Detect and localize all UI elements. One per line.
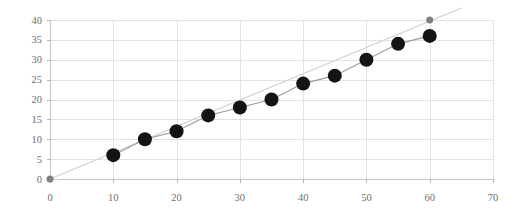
measured-data-point [359, 53, 373, 67]
measured-data-point [106, 148, 120, 162]
x-tick-label-60: 60 [424, 192, 435, 203]
x-tick-label-30: 30 [235, 192, 246, 203]
measured-data-point [391, 37, 405, 51]
measured-data-point [423, 29, 437, 43]
x-tick-label-10: 10 [108, 192, 119, 203]
vertical-gridlines [114, 20, 494, 179]
y-tick-label-30: 30 [32, 54, 43, 65]
x-tick-label-50: 50 [361, 192, 372, 203]
y-tick-label-15: 15 [32, 114, 43, 125]
y-tick-label-10: 10 [32, 134, 43, 145]
x-tick-label-20: 20 [171, 192, 182, 203]
measured-data-point [201, 108, 215, 122]
measured-data-point [328, 69, 342, 83]
y-tick-label-25: 25 [32, 74, 43, 85]
x-tick-label-70: 70 [488, 192, 499, 203]
trend-data-point [426, 17, 433, 24]
measured-data-point [138, 132, 152, 146]
y-tick-label-35: 35 [32, 34, 43, 45]
y-tick-label-5: 5 [37, 154, 42, 165]
measured-data-point [296, 77, 310, 91]
trend-data-point [47, 176, 54, 183]
measured-data-point [265, 93, 279, 107]
y-tick-label-0: 0 [37, 174, 42, 185]
y-tick-label-20: 20 [32, 94, 43, 105]
y-axis-tick-labels: 0510152025303540 [32, 15, 43, 185]
x-tick-label-0: 0 [47, 192, 52, 203]
scatter-chart: 0510152025303540 010203040506070 [0, 0, 528, 217]
x-tick-label-40: 40 [298, 192, 309, 203]
measured-data-point [170, 124, 184, 138]
y-tick-label-40: 40 [32, 15, 43, 26]
x-axis-tick-labels: 010203040506070 [47, 192, 498, 203]
measured-data-point [233, 100, 247, 114]
chart-container: 0510152025303540 010203040506070 [0, 0, 528, 217]
